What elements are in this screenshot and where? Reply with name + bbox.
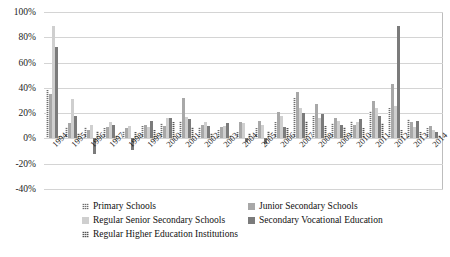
- chart-legend: Primary SchoolsJunior Secondary SchoolsR…: [0, 198, 450, 242]
- y-axis-tick-label: 100%: [0, 7, 36, 17]
- x-axis-tick-label: 2000: [164, 130, 183, 149]
- x-axis-tick-label: 2005: [259, 130, 278, 149]
- x-axis-tick-label: 2006: [278, 130, 297, 149]
- y-axis-tick-label: 0%: [0, 133, 36, 143]
- legend-label: Primary Schools: [93, 202, 156, 212]
- y-axis-tick-label: -20%: [0, 159, 36, 169]
- x-axis-tick-label: 2008: [316, 130, 335, 149]
- legend-item[interactable]: Secondary Vocational Education: [248, 216, 383, 226]
- x-axis-tick-label: 1995: [69, 130, 88, 149]
- legend-item[interactable]: Regular Senior Secondary Schools: [82, 216, 225, 226]
- y-axis-tick-label: 40%: [0, 83, 36, 93]
- legend-label: Regular Senior Secondary Schools: [93, 216, 225, 226]
- x-axis-tick-label: 2001: [183, 130, 202, 149]
- chart-screenshot: 1994199519961997199819992000200120022003…: [0, 0, 450, 257]
- legend-swatch-icon: [82, 203, 89, 210]
- y-axis-tick-label: -40%: [0, 184, 36, 194]
- legend-swatch-icon: [82, 231, 89, 238]
- legend-label: Regular Higher Education Institutions: [93, 230, 238, 240]
- x-axis-tick-label: 2002: [202, 130, 221, 149]
- x-axis-tick-label: 2003: [221, 130, 240, 149]
- legend-swatch-icon: [248, 203, 255, 210]
- x-axis-tick-label: 2010: [354, 130, 373, 149]
- legend-item[interactable]: Junior Secondary Schools: [248, 202, 358, 212]
- x-axis-tick-label: 1998: [126, 130, 145, 149]
- x-axis-tick-label: 2009: [335, 130, 354, 149]
- legend-swatch-icon: [248, 217, 255, 224]
- x-axis-tick-label: 1996: [88, 130, 107, 149]
- legend-item[interactable]: Primary Schools: [82, 202, 156, 212]
- x-axis-tick-label: 1999: [145, 130, 164, 149]
- x-axis-tick-label: 1994: [50, 130, 69, 149]
- x-axis-tick-label: 2007: [297, 130, 316, 149]
- x-axis-tick-label: 2004: [240, 130, 259, 149]
- y-axis-tick-label: 60%: [0, 58, 36, 68]
- y-axis-tick-label: 80%: [0, 32, 36, 42]
- legend-swatch-icon: [82, 217, 89, 224]
- legend-item[interactable]: Regular Higher Education Institutions: [82, 230, 238, 240]
- x-axis-tick-label: 1997: [107, 130, 126, 149]
- x-axis-tick-label: 2014: [430, 130, 449, 149]
- y-axis-tick-label: 20%: [0, 108, 36, 118]
- legend-label: Secondary Vocational Education: [259, 216, 383, 226]
- legend-label: Junior Secondary Schools: [259, 202, 358, 212]
- x-axis-tick-label: 2011: [373, 131, 392, 150]
- x-axis-tick-label: 2012: [392, 130, 411, 149]
- x-axis-tick-label: 2013: [411, 130, 430, 149]
